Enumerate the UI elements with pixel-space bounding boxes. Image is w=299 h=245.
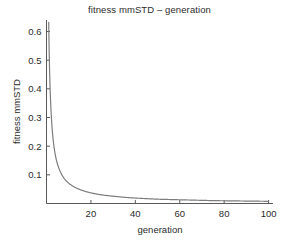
y-tick-label: 0.3 bbox=[28, 112, 41, 123]
y-tick-label: 0.2 bbox=[28, 141, 41, 152]
y-tick-label: 0.5 bbox=[28, 55, 41, 66]
x-axis-ticks: 20406080100 bbox=[86, 200, 277, 219]
x-tick-label: 60 bbox=[174, 208, 185, 219]
y-tick-label: 0.1 bbox=[28, 169, 41, 180]
plot-area: 0.10.20.30.40.50.6 20406080100 bbox=[0, 0, 299, 245]
y-tick-label: 0.6 bbox=[28, 26, 41, 37]
x-tick-label: 40 bbox=[130, 208, 141, 219]
y-tick-label: 0.4 bbox=[28, 83, 41, 94]
x-tick-label: 80 bbox=[219, 208, 230, 219]
x-tick-label: 100 bbox=[261, 208, 277, 219]
axis-lines bbox=[47, 20, 274, 204]
figure-canvas: fitness mmSTD – generation fitness mmSTD… bbox=[0, 0, 299, 245]
x-tick-label: 20 bbox=[86, 208, 97, 219]
data-series-line bbox=[49, 22, 269, 201]
